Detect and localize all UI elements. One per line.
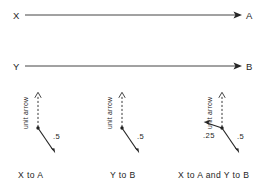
unit-arrow-label-2: unit arrow xyxy=(106,97,113,129)
node-label-b: B xyxy=(246,61,253,72)
node-label-a: A xyxy=(246,10,253,21)
node-label-y: Y xyxy=(13,61,20,72)
vector-down-right-head-icon-3 xyxy=(235,148,240,154)
diagram-caption-1: X to A xyxy=(18,170,43,180)
diagram-y-to-b: unit arrow .5 Y to B xyxy=(106,92,144,180)
diagram-caption-2: Y to B xyxy=(110,170,136,180)
unit-arrow-label-1: unit arrow xyxy=(22,97,29,129)
diagram-x-to-a: unit arrow .5 X to A xyxy=(18,92,60,180)
vector-down-right-shaft-1 xyxy=(38,128,53,150)
figure-root: A ============ --> X A B ============ --… xyxy=(0,0,276,193)
vector-magnitude-label-1-0: .5 xyxy=(53,132,60,141)
vector-down-right-head-icon-1 xyxy=(51,148,56,154)
diagram-caption-3: X to A and Y to B xyxy=(178,170,249,180)
path-y-b-group: Y B xyxy=(13,61,253,72)
path-x-a-group: X A xyxy=(13,10,253,21)
node-label-x: X xyxy=(13,10,20,21)
vector-magnitude-label-3-1: .5 xyxy=(237,132,244,141)
vector-down-right-head-icon-2 xyxy=(135,148,140,154)
diagram-x-to-a-and-y-to-b: unit arrow .25 .5 X to A and Y to B xyxy=(178,92,249,180)
vector-down-right-shaft-2 xyxy=(122,128,137,150)
vector-down-right-shaft-3 xyxy=(222,128,237,150)
figure-canvas: A ============ --> X A B ============ --… xyxy=(0,0,276,193)
vector-magnitude-label-3-0: .25 xyxy=(203,131,215,140)
vector-magnitude-label-2-0: .5 xyxy=(137,132,144,141)
